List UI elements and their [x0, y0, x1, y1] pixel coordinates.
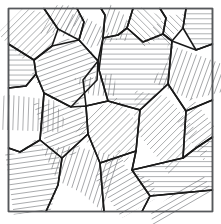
tessellation-diagram: Hatched polygonal tessellation	[0, 0, 221, 224]
figure-root: Hatched polygonal tessellation	[0, 0, 221, 224]
